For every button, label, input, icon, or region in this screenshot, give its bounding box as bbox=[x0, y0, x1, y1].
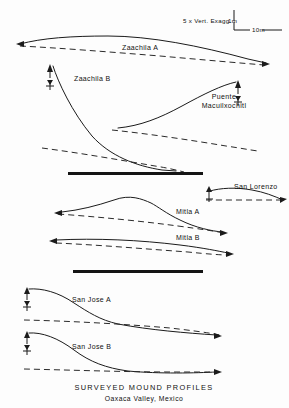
datum-line-mitla-a bbox=[58, 214, 224, 233]
profile-san-jose-b: San Jose B bbox=[23, 331, 222, 375]
left-arrow-icon-mitla-b bbox=[49, 238, 57, 244]
figure-caption: SURVEYED MOUND PROFILES Oaxaca Valley, M… bbox=[74, 383, 213, 403]
right-arrow-icon-san-lorenzo bbox=[280, 197, 287, 203]
caption-title: SURVEYED MOUND PROFILES bbox=[74, 383, 213, 392]
profile-mitla-a: Mitla A bbox=[54, 197, 228, 236]
vertical-arrow-head-zaachila-b bbox=[47, 64, 53, 72]
profile-label-puente-macuilxochitl-line1: Puente bbox=[212, 93, 236, 100]
section-divider-lower bbox=[73, 270, 203, 273]
datum-line-zaachila-b bbox=[42, 148, 184, 172]
profile-zaachila-a: Zaachila A bbox=[16, 36, 270, 67]
profile-label-puente-macuilxochitl-line2: Macuilxochitl bbox=[202, 102, 247, 109]
profile-label-san-lorenzo: San Lorenzo bbox=[234, 183, 278, 190]
vertical-arrow-head-san-jose-a bbox=[24, 287, 30, 294]
scale-vertical-exaggeration-label: 5 x Vert. Exagg. bbox=[183, 17, 231, 24]
datum-arrow-head-san-jose-a bbox=[24, 301, 30, 306]
profile-label-mitla-a: Mitla A bbox=[176, 208, 199, 215]
surface-line-san-jose-a bbox=[29, 289, 216, 335]
vertical-arrow-head-san-jose-b bbox=[24, 331, 30, 338]
vertical-arrow-head-puente bbox=[235, 80, 241, 88]
datum-centerline-icon-san-lorenzo bbox=[206, 196, 213, 202]
surface-line-zaachila-b bbox=[53, 66, 176, 171]
right-arrow-icon-san-jose-b bbox=[214, 369, 222, 375]
profile-label-zaachila-b: Zaachila B bbox=[74, 75, 111, 82]
surface-line-san-jose-b bbox=[29, 333, 216, 373]
datum-arrow-head-zaachila-b bbox=[47, 80, 53, 85]
profile-mitla-b: Mitla B bbox=[49, 234, 234, 257]
scale-vertical-unit-label: 1m bbox=[228, 17, 237, 24]
profile-san-jose-a: San Jose A bbox=[23, 287, 222, 339]
right-arrow-icon-mitla-b bbox=[226, 251, 234, 257]
surface-line-mitla-b bbox=[56, 239, 228, 253]
scale-legend: 5 x Vert. Exagg. 1m 10m bbox=[183, 10, 282, 33]
profile-label-san-jose-a: San Jose A bbox=[72, 296, 111, 303]
profile-label-zaachila-a: Zaachila A bbox=[122, 44, 158, 51]
scale-horizontal-unit-label: 10m bbox=[252, 26, 265, 33]
profile-label-mitla-b: Mitla B bbox=[176, 234, 200, 241]
datum-line-puente-macuilxochitl bbox=[112, 130, 258, 151]
mound-profile-figure: 5 x Vert. Exagg. 1m 10m Zaachila A Zaach… bbox=[0, 0, 289, 408]
right-arrow-icon-mitla-a bbox=[220, 230, 228, 236]
profile-puente-macuilxochitl: Puente Macuilxochitl bbox=[112, 80, 258, 151]
datum-arrow-head-san-jose-b bbox=[24, 345, 30, 350]
profile-san-lorenzo: San Lorenzo bbox=[206, 183, 287, 203]
right-arrow-icon-zaachila-a bbox=[262, 61, 270, 67]
caption-subtitle: Oaxaca Valley, Mexico bbox=[105, 395, 184, 403]
profiles-canvas: 5 x Vert. Exagg. 1m 10m Zaachila A Zaach… bbox=[0, 0, 289, 408]
right-arrow-icon-san-jose-a bbox=[214, 333, 222, 339]
datum-line-mitla-b bbox=[56, 243, 228, 255]
profile-label-san-jose-b: San Jose B bbox=[72, 343, 111, 350]
left-arrow-icon-mitla-a bbox=[54, 210, 62, 216]
profile-zaachila-b: Zaachila B bbox=[42, 64, 184, 172]
section-divider-upper bbox=[68, 172, 203, 175]
vertical-arrow-head-san-lorenzo bbox=[206, 186, 212, 192]
